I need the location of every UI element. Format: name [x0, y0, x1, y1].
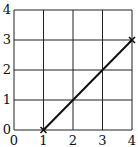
data-series [41, 37, 136, 133]
y-tick-label: 0 [3, 122, 11, 137]
x-axis-ticks: 01234 [10, 133, 136, 147]
line-chart: 01234 01234 [0, 0, 138, 147]
y-tick-label: 2 [3, 62, 11, 77]
x-tick-label: 3 [98, 133, 106, 147]
x-tick-label: 4 [128, 133, 136, 147]
x-tick-label: 2 [69, 133, 77, 147]
x-tick-label: 1 [39, 133, 47, 147]
y-tick-label: 3 [3, 32, 11, 47]
series-line [44, 40, 133, 130]
y-tick-label: 1 [3, 92, 11, 107]
y-tick-label: 4 [3, 2, 11, 17]
y-axis-ticks: 01234 [3, 2, 11, 137]
chart-grid [14, 10, 132, 130]
